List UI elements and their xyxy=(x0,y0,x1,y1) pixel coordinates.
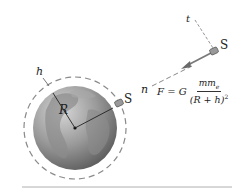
formula-lhs: F xyxy=(157,86,164,97)
numerator-text: mm xyxy=(199,78,216,88)
altitude-leader xyxy=(43,78,49,86)
normal-axis-label: n xyxy=(141,84,148,95)
satellite-near-icon xyxy=(114,99,124,108)
numerator-subscript: e xyxy=(216,83,220,90)
gravitational-force-formula: F = G mme (R + h)2 xyxy=(157,78,228,105)
tangential-axis-line xyxy=(195,20,213,48)
radius-label: R xyxy=(59,104,68,116)
formula-denominator: (R + h)2 xyxy=(190,92,229,105)
formula-numerator: mme xyxy=(197,78,222,92)
formula-equals: = xyxy=(164,86,179,97)
formula-fraction: mme (R + h)2 xyxy=(190,78,229,105)
altitude-label: h xyxy=(36,66,43,77)
satellite-near-label: S xyxy=(124,93,132,105)
denominator-text: (R + h) xyxy=(190,94,225,105)
formula-constant: G xyxy=(179,86,187,97)
tangential-axis-label: t xyxy=(186,14,190,24)
denominator-exponent: 2 xyxy=(224,93,228,100)
satellite-far-label: S xyxy=(220,39,228,51)
